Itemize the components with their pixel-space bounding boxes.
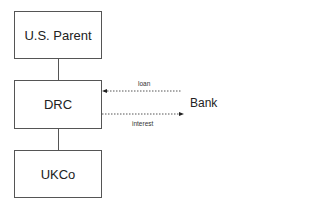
bank-node: Bank: [190, 96, 217, 110]
loan-label: loan: [138, 80, 150, 87]
interest-arrowhead-icon: [179, 112, 184, 116]
interest-label: interest: [132, 120, 153, 127]
loan-arrowhead-icon: [102, 89, 107, 93]
